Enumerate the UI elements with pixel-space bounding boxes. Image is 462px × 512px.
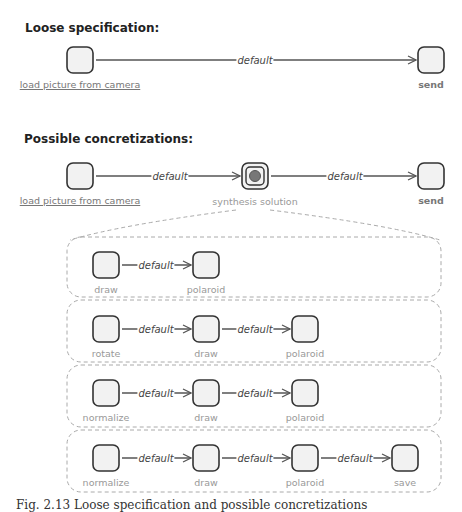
node-label: polaroid <box>187 284 225 295</box>
node-send[interactable] <box>418 47 444 73</box>
alt3-node-polaroid[interactable] <box>292 380 318 406</box>
node-label: draw <box>194 412 218 423</box>
node-synthesis-solution[interactable] <box>242 163 268 189</box>
alt3-node-draw[interactable] <box>193 380 219 406</box>
alt2-node-draw[interactable] <box>193 316 219 342</box>
node-label: draw <box>194 477 218 488</box>
edge-label: default <box>137 260 174 271</box>
node-label-load-picture[interactable]: load picture from camera <box>20 79 141 90</box>
node-send-2[interactable] <box>418 163 444 189</box>
edge-label: default <box>326 171 363 182</box>
node-label: polaroid <box>286 412 324 423</box>
node-label-synthesis-solution: synthesis solution <box>212 196 297 207</box>
node-label: draw <box>194 348 218 359</box>
alt1-node-draw[interactable] <box>93 252 119 278</box>
figure-caption: Fig. 2.13 Loose specification and possib… <box>16 498 367 512</box>
node-load-picture-2[interactable] <box>67 163 93 189</box>
loose-spec-title: Loose specification: <box>25 21 159 35</box>
alternative-2-graph <box>93 316 318 342</box>
node-label: polaroid <box>286 477 324 488</box>
alt4-node-save[interactable] <box>392 445 418 471</box>
node-label: save <box>394 477 416 488</box>
edge-label: default <box>236 324 273 335</box>
node-label-load-picture[interactable]: load picture from camera <box>20 195 141 206</box>
alt4-node-polaroid[interactable] <box>292 445 318 471</box>
concretizations-title: Possible concretizations: <box>24 132 193 146</box>
node-label: rotate <box>92 348 121 359</box>
alt2-node-polaroid[interactable] <box>292 316 318 342</box>
alternative-1-region <box>67 237 441 297</box>
edge-label: default <box>236 55 273 66</box>
alternative-3-graph <box>93 380 318 406</box>
expansion-fan <box>70 210 440 240</box>
node-label: polaroid <box>286 348 324 359</box>
edge-label: default <box>151 171 188 182</box>
alt2-node-rotate[interactable] <box>93 316 119 342</box>
edge-label: default <box>137 388 174 399</box>
node-label: draw <box>94 284 118 295</box>
alt4-node-normalize[interactable] <box>93 445 119 471</box>
edge-label: default <box>137 453 174 464</box>
edge-label: default <box>137 324 174 335</box>
alt1-node-polaroid[interactable] <box>193 252 219 278</box>
alt4-node-draw[interactable] <box>193 445 219 471</box>
node-label: normalize <box>83 412 130 423</box>
node-load-picture[interactable] <box>67 47 93 73</box>
concretization-graph <box>67 163 444 189</box>
edge-label: default <box>336 453 373 464</box>
node-label-send: send <box>418 79 444 90</box>
edge-label: default <box>236 453 273 464</box>
edge-label: default <box>236 388 273 399</box>
node-label: normalize <box>83 477 130 488</box>
node-label-send: send <box>418 195 444 206</box>
alt3-node-normalize[interactable] <box>93 380 119 406</box>
